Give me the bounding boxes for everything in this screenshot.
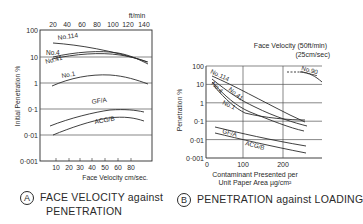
svg-text:20: 20	[49, 21, 57, 28]
svg-text:10: 10	[30, 54, 38, 61]
caption-a-circle: A	[20, 191, 34, 205]
svg-text:50: 50	[101, 164, 109, 171]
chart-b-xlabel-2: Unit Paper Area µg/cm²	[219, 179, 293, 187]
svg-text:100: 100	[107, 21, 119, 28]
chart-a-xlabel: Face Velocity cm/sec.	[82, 174, 148, 182]
svg-text:ACG/B: ACG/B	[245, 139, 266, 151]
svg-text:0·001: 0·001	[20, 158, 38, 165]
svg-text:100: 100	[237, 161, 249, 168]
chart-b-yticks: 100 10 1 0·1 0·01 0·001	[186, 63, 204, 162]
svg-text:ACG/B: ACG/B	[94, 115, 115, 125]
caption-b-text: PENETRATION against LOADING	[197, 193, 363, 205]
caption-a-line2: PENETRATION	[46, 205, 122, 217]
caption-a: AFACE VELOCITY against	[20, 191, 163, 205]
svg-text:120: 120	[122, 21, 134, 28]
chart-b-subtitle-2: (25cm/sec)	[295, 51, 330, 59]
svg-text:60: 60	[114, 164, 122, 171]
svg-text:No.1: No.1	[61, 70, 76, 79]
svg-text:100: 100	[26, 27, 38, 34]
curve-no41	[52, 54, 147, 62]
caption-a-line2-wrap: PENETRATION	[46, 205, 122, 217]
svg-text:No.1: No.1	[222, 99, 237, 111]
svg-text:40: 40	[88, 164, 96, 171]
svg-text:20: 20	[65, 164, 73, 171]
svg-text:No.114: No.114	[210, 68, 231, 83]
svg-text:30: 30	[76, 164, 84, 171]
curve-no114	[53, 43, 148, 62]
svg-text:0: 0	[205, 161, 209, 168]
svg-text:100: 100	[192, 63, 204, 70]
svg-text:140: 140	[138, 21, 150, 28]
svg-text:0·01: 0·01	[190, 137, 204, 144]
chart-a-x2label: ft/min	[129, 12, 146, 19]
svg-text:No.114: No.114	[57, 31, 79, 41]
chart-b-xlabel-1: Contaminant Presented per	[212, 171, 298, 179]
svg-text:1: 1	[34, 80, 38, 87]
svg-text:GF/A: GF/A	[91, 96, 108, 105]
chart-b-ylabel: Penetration %	[176, 89, 183, 132]
svg-text:10: 10	[196, 81, 204, 88]
chart-b-subtitle-1: Face Velocity (50ft/min)	[254, 42, 327, 50]
svg-text:80: 80	[127, 164, 135, 171]
caption-a-line1: FACE VELOCITY against	[40, 191, 163, 203]
svg-text:80: 80	[93, 21, 101, 28]
caption-b: BPENETRATION against LOADING	[177, 193, 363, 207]
svg-text:0·01: 0·01	[24, 132, 38, 139]
svg-text:40: 40	[63, 21, 71, 28]
chart-a-ylabel: Initial Penetration %	[14, 66, 21, 126]
svg-text:1: 1	[200, 100, 204, 107]
chart-b: Face Velocity (50ft/min) (25cm/sec) 100 …	[176, 42, 330, 187]
chart-a-x2ticks: 20 40 60 80 100 120 140	[49, 21, 150, 28]
svg-text:0·001: 0·001	[186, 155, 204, 162]
chart-a-xticks: 10 20 30 40 50 60 80	[52, 164, 135, 171]
caption-b-circle: B	[177, 193, 191, 207]
svg-text:10: 10	[52, 164, 60, 171]
svg-text:0·1: 0·1	[28, 106, 38, 113]
svg-text:60: 60	[78, 21, 86, 28]
svg-text:0·1: 0·1	[194, 118, 204, 125]
chart-a: 100 10 1 0·1 0·01 0·001 10 20 30 40 50 6…	[14, 12, 152, 182]
svg-text:200: 200	[277, 161, 289, 168]
chart-a-yticks: 100 10 1 0·1 0·01 0·001	[20, 27, 38, 165]
chart-b-xticks: 0 100 200	[205, 161, 289, 168]
